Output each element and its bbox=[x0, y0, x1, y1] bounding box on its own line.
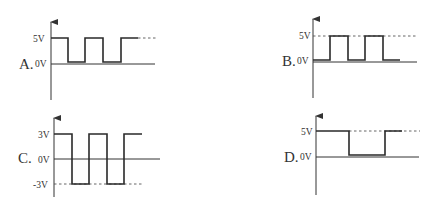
square-wave bbox=[316, 131, 402, 155]
tick-label-0v: 0V bbox=[297, 56, 309, 66]
tick-label-5v: 5V bbox=[33, 34, 45, 44]
tick-label-5v: 5V bbox=[299, 31, 311, 41]
option-label-d: D. bbox=[284, 149, 299, 165]
panel-b: B. 5V 0V bbox=[282, 19, 418, 98]
tick-label-5v: 5V bbox=[301, 127, 313, 137]
option-label-c: C. bbox=[18, 150, 32, 166]
panel-a: A. 5V 0V bbox=[19, 22, 156, 100]
waveform-options-figure: A. 5V 0V B. 5V 0V C. 3V 0V -3V D. 5V 0V bbox=[0, 0, 439, 208]
square-wave bbox=[51, 38, 138, 62]
tick-label-0v: 0V bbox=[35, 59, 47, 69]
tick-label-3v: 3V bbox=[38, 130, 50, 140]
option-label-b: B. bbox=[282, 53, 296, 69]
panel-d: D. 5V 0V bbox=[284, 116, 420, 195]
panel-c: C. 3V 0V -3V bbox=[18, 118, 160, 197]
tick-label-minus-3v: -3V bbox=[33, 180, 48, 190]
option-label-a: A. bbox=[19, 56, 34, 72]
tick-label-0v: 0V bbox=[300, 152, 312, 162]
tick-label-0v: 0V bbox=[38, 155, 50, 165]
square-wave bbox=[313, 36, 400, 60]
